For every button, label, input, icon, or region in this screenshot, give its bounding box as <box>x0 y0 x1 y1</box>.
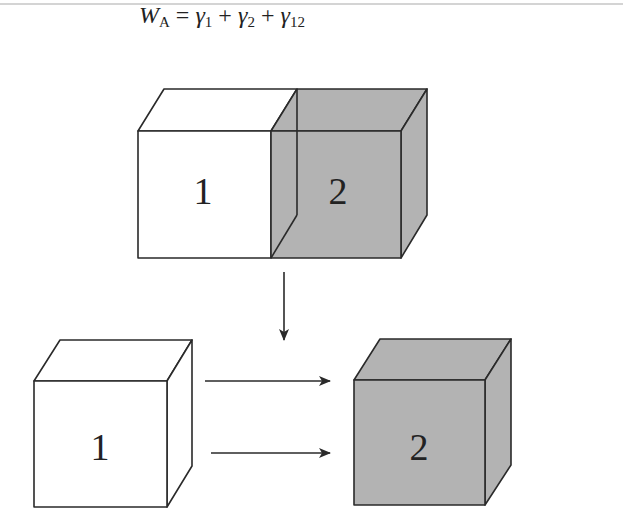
cube-2 <box>354 339 511 505</box>
top-label-2: 2 <box>329 170 348 212</box>
joined-block <box>138 89 427 258</box>
top-label-1: 1 <box>194 170 213 212</box>
separation-diagram: 1 2 1 2 <box>0 0 623 528</box>
cube-2-label: 2 <box>410 426 429 468</box>
cube-1-label: 1 <box>91 426 110 468</box>
cube-1 <box>34 340 192 507</box>
